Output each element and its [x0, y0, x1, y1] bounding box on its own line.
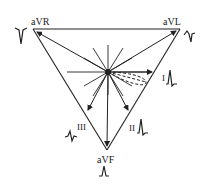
label-lead-iii: III: [77, 122, 86, 132]
waveform-avf-icon: [99, 166, 109, 176]
label-lead-i: I: [162, 73, 165, 83]
diagram-canvas: aVR aVL aVF I II III: [0, 0, 215, 196]
label-avf: aVF: [97, 154, 115, 165]
lead-vectors: [37, 31, 176, 146]
waveform-avl-icon: [184, 31, 195, 42]
vector-avf: [107, 72, 108, 146]
label-avl: aVL: [163, 16, 181, 27]
label-lead-ii: II: [129, 123, 135, 133]
waveform-avr-icon: [15, 28, 27, 44]
label-avr: aVR: [31, 16, 50, 27]
einthoven-triangle-diagram: aVR aVL aVF I II III: [0, 0, 215, 196]
waveform-lead-iii-icon: [65, 131, 77, 141]
waveform-lead-ii-icon: [137, 119, 148, 135]
triangle-edge-right: [107, 29, 180, 150]
waveform-lead-i-icon: [166, 70, 177, 86]
